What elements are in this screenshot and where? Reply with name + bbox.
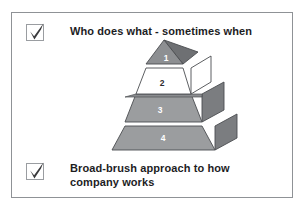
header-checkbox[interactable] bbox=[26, 24, 44, 41]
footer-checkbox[interactable] bbox=[26, 163, 44, 180]
slide-canvas: Who does what - sometimes when 4 bbox=[0, 0, 305, 212]
checkmark-icon bbox=[26, 21, 47, 43]
pyramid-diagram: 4 3 2 bbox=[98, 38, 248, 163]
footer-row: Broad-brush approach to how company work… bbox=[12, 161, 294, 197]
footer-caption: Broad-brush approach to how company work… bbox=[70, 162, 278, 189]
slide-frame: Who does what - sometimes when 4 bbox=[11, 12, 293, 198]
pyramid-tier-3-label: 3 bbox=[158, 105, 163, 115]
pyramid-svg: 4 3 2 bbox=[98, 38, 248, 163]
pyramid-tier-1-label: 1 bbox=[164, 53, 169, 63]
pyramid-tier-1: 1 bbox=[146, 40, 198, 64]
header-caption: Who does what - sometimes when bbox=[70, 25, 285, 39]
pyramid-tier-2-label: 2 bbox=[160, 78, 165, 88]
pyramid-tier-4-label: 4 bbox=[161, 133, 166, 143]
checkmark-icon bbox=[26, 160, 47, 182]
